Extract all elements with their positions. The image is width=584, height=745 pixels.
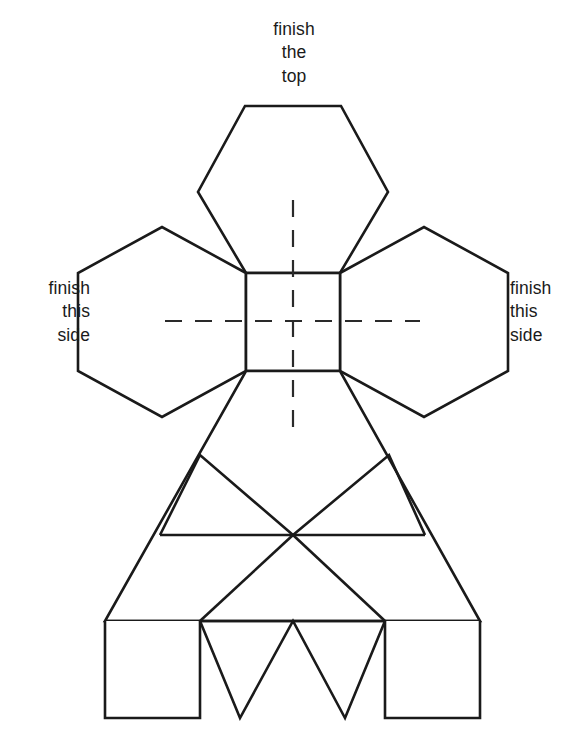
- label-finish-the-top: finish the top: [204, 18, 384, 88]
- zigzag-tabs: [200, 621, 385, 718]
- label-finish-this-side-left: finish this side: [6, 277, 90, 347]
- label-finish-this-side-right: finish this side: [510, 277, 584, 347]
- hexagon-right-face: [340, 227, 508, 417]
- hexagon-left-face: [78, 227, 246, 417]
- net-diagram-svg: [0, 0, 584, 745]
- hexagon-top-face: [198, 106, 388, 273]
- papercraft-net-figure: finish the top finish this side finish t…: [0, 0, 584, 745]
- glue-tab-right: [385, 621, 480, 718]
- glue-tab-left: [105, 621, 200, 718]
